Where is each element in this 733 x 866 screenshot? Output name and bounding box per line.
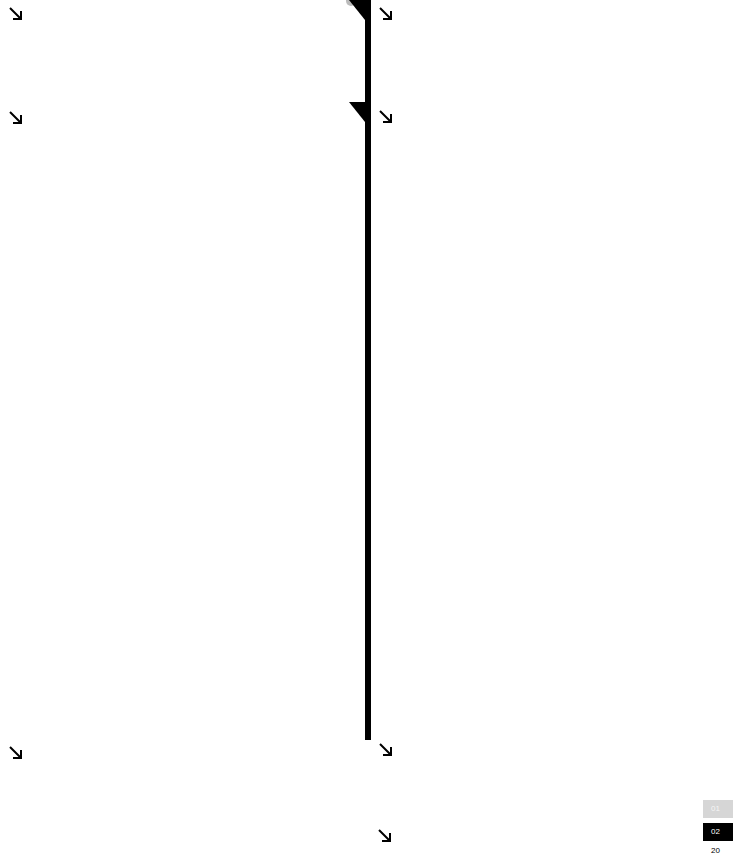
arrow-down-right-icon[interactable] xyxy=(8,745,24,761)
year-label: 20 xyxy=(711,846,720,855)
arrow-down-right-icon[interactable] xyxy=(377,828,393,844)
arrow-down-right-icon[interactable] xyxy=(378,6,394,22)
arrow-down-right-icon[interactable] xyxy=(8,110,24,126)
timeline-divider xyxy=(365,0,371,740)
arrow-down-right-icon[interactable] xyxy=(8,6,24,22)
timeline-flag-marker xyxy=(349,102,365,122)
arrow-down-right-icon[interactable] xyxy=(378,109,394,125)
timeline-flag-marker xyxy=(349,0,365,20)
arrow-down-right-icon[interactable] xyxy=(378,742,394,758)
page-button-current[interactable]: 02 xyxy=(703,823,733,841)
page-button-prev[interactable]: 01 xyxy=(703,800,733,818)
